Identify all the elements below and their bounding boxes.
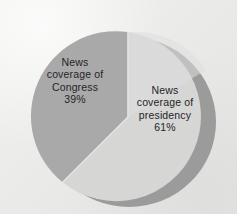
pie-label-presidency: News coverage of presidency 61%: [126, 84, 204, 134]
pie-label-congress-line-2: coverage of: [38, 68, 112, 80]
pie-label-congress: News coverage of Congress 39%: [38, 56, 112, 106]
pie-label-presidency-percent: 61%: [126, 121, 204, 133]
pie-label-congress-line-1: News: [38, 56, 112, 68]
pie-chart: News coverage of Congress 39% News cover…: [0, 0, 237, 214]
pie-label-presidency-line-1: News: [126, 84, 204, 96]
pie-label-congress-percent: 39%: [38, 93, 112, 105]
pie-label-congress-line-3: Congress: [38, 81, 112, 93]
pie-label-presidency-line-3: presidency: [126, 109, 204, 121]
pie-label-presidency-line-2: coverage of: [126, 96, 204, 108]
